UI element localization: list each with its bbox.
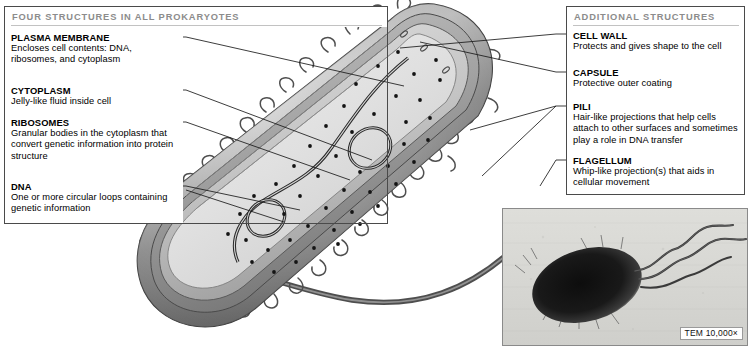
right-panel-header: ADDITIONAL STRUCTURES: [574, 12, 715, 22]
desc-dna: One or more circular loops containing ge…: [11, 192, 179, 215]
desc-cytoplasm: Jelly-like fluid inside cell: [11, 96, 179, 107]
label-dna: DNA: [11, 181, 32, 192]
desc-cell-wall: Protects and gives shape to the cell: [573, 41, 741, 52]
desc-ribosomes: Granular bodies in the cytoplasm that co…: [11, 128, 183, 162]
desc-capsule: Protective outer coating: [573, 78, 741, 89]
left-panel-header: FOUR STRUCTURES IN ALL PROKARYOTES: [12, 12, 239, 22]
leader-flagellum: [540, 160, 566, 186]
label-pili: PILI: [573, 101, 591, 112]
label-cytoplasm: CYTOPLASM: [11, 85, 71, 96]
desc-flagellum: Whip-like projection(s) that aids in cel…: [573, 166, 741, 189]
label-cell-wall: CELL WALL: [573, 30, 627, 41]
micrograph-caption: TEM 10,000×: [680, 327, 743, 340]
right-panel-header-rule: [573, 25, 739, 26]
desc-pili: Hair-like projections that help cells at…: [573, 112, 743, 146]
label-flagellum: FLAGELLUM: [573, 155, 632, 166]
micrograph-image: [503, 209, 748, 346]
desc-plasma-membrane: Encloses cell contents: DNA, ribosomes, …: [11, 43, 179, 66]
left-panel-header-rule: [11, 25, 382, 26]
label-plasma-membrane: PLASMA MEMBRANE: [11, 32, 110, 43]
figure-canvas: TEM 10,000× FOUR STRUCTURES IN ALL PROKA…: [0, 0, 750, 348]
label-capsule: CAPSULE: [573, 67, 619, 78]
micrograph-inset: TEM 10,000×: [502, 208, 748, 346]
label-ribosomes: RIBOSOMES: [11, 117, 69, 128]
